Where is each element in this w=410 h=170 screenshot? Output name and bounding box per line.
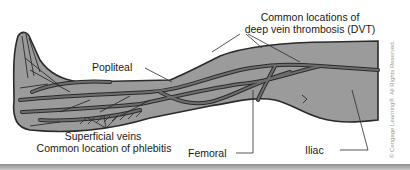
phlebitis-label: Common location of phlebitis	[22, 142, 186, 154]
copyright-notice: © Cengage Learning®. All Rights Reserved…	[389, 41, 395, 158]
dvt-label-line2: deep vein thrombosis (DVT)	[235, 23, 385, 35]
dvt-label-line1: Common locations of	[250, 11, 370, 23]
bottom-border	[0, 164, 410, 170]
iliac-label: Iliac	[305, 144, 324, 156]
femoral-label: Femoral	[188, 147, 227, 159]
popliteal-label: Popliteal	[92, 61, 132, 73]
superficial-veins-label: Superficial veins	[38, 130, 168, 142]
